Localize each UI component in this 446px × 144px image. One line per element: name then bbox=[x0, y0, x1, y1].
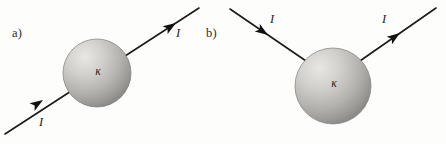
panel-label-a: a) bbox=[12, 26, 22, 41]
current-label-a-outgoing: I bbox=[176, 26, 180, 41]
arrowhead-b-incoming bbox=[255, 24, 271, 39]
figure-canvas bbox=[0, 0, 446, 144]
current-label-b-incoming: I bbox=[270, 12, 274, 27]
current-label-b-outgoing: I bbox=[382, 12, 386, 27]
kappa-symbol-b: κ bbox=[331, 77, 337, 89]
physics-figure: a) b) κ κ I I I I bbox=[0, 0, 446, 144]
kappa-symbol-a: κ bbox=[95, 65, 101, 77]
current-label-a-incoming: I bbox=[39, 115, 43, 130]
panel-label-b: b) bbox=[206, 26, 217, 41]
arrowhead-b-outgoing bbox=[387, 29, 403, 44]
